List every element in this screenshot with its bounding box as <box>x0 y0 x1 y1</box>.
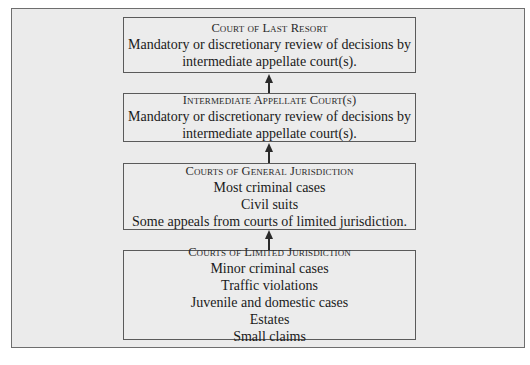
box-title: Courts of Limited Jurisdiction <box>188 245 351 260</box>
box-line: Small claims <box>233 328 306 345</box>
box-line: Civil suits <box>241 196 298 213</box>
arrow-up-icon <box>268 74 270 93</box>
arrow-up-icon <box>268 143 270 163</box>
box-line: Traffic violations <box>221 277 318 294</box>
box-court-of-last-resort: Court of Last Resort Mandatory or discre… <box>123 17 416 73</box>
box-courts-of-general-jurisdiction: Courts of General Jurisdiction Most crim… <box>123 163 416 230</box>
box-title: Intermediate Appellate Court(s) <box>183 93 356 108</box>
box-line: Minor criminal cases <box>210 260 328 277</box>
box-line: intermediate appellate court(s). <box>182 125 357 142</box>
box-line: intermediate appellate court(s). <box>182 53 357 70</box>
box-line: Juvenile and domestic cases <box>191 294 348 311</box>
box-line: Mandatory or discretionary review of dec… <box>128 108 411 125</box>
box-line: Estates <box>250 311 290 328</box>
box-line: Most criminal cases <box>214 179 326 196</box>
box-courts-of-limited-jurisdiction: Courts of Limited Jurisdiction Minor cri… <box>123 250 416 340</box>
box-intermediate-appellate-courts: Intermediate Appellate Court(s) Mandator… <box>123 93 416 142</box>
box-title: Courts of General Jurisdiction <box>185 164 353 179</box>
box-line: Some appeals from courts of limited juri… <box>132 213 407 230</box>
box-title: Court of Last Resort <box>211 21 327 36</box>
box-line: Mandatory or discretionary review of dec… <box>128 36 411 53</box>
